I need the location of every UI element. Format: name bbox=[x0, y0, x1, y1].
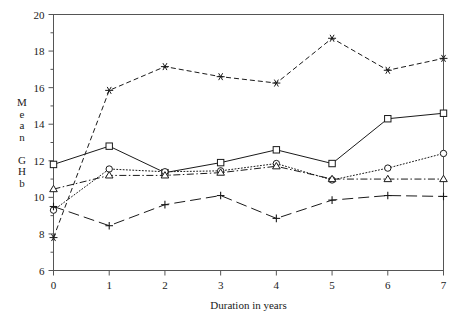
marker-triangle bbox=[384, 175, 392, 181]
y-tick-label: 16 bbox=[34, 82, 46, 94]
x-tick-label: 3 bbox=[218, 279, 224, 291]
series-series-5 bbox=[50, 192, 448, 230]
marker-triangle bbox=[105, 172, 113, 178]
y-axis-ticks bbox=[49, 15, 54, 271]
y-axis-title-char: b bbox=[19, 177, 25, 189]
series-line bbox=[54, 196, 444, 226]
marker-square bbox=[440, 110, 446, 116]
x-tick-label: 1 bbox=[106, 279, 112, 291]
y-axis-title-char: e bbox=[20, 108, 25, 120]
x-axis-tick-labels: 01234567 bbox=[51, 279, 447, 291]
marker-square bbox=[217, 159, 223, 165]
y-tick-label: 6 bbox=[39, 265, 45, 277]
marker-square bbox=[385, 116, 391, 122]
marker-square bbox=[106, 143, 112, 149]
y-axis-title-char: a bbox=[20, 119, 25, 131]
marker-square bbox=[329, 160, 335, 166]
x-tick-label: 0 bbox=[51, 279, 57, 291]
marker-circle bbox=[440, 150, 446, 156]
chart-figure: 68101214161820 01234567 MeanGHb Duration… bbox=[0, 0, 462, 319]
y-axis-title-char: H bbox=[18, 165, 26, 177]
series-series-1 bbox=[50, 35, 448, 241]
y-axis-title-char: M bbox=[17, 96, 27, 108]
x-axis-title-text: Duration in years bbox=[210, 299, 286, 311]
marker-square bbox=[273, 147, 279, 153]
x-axis-title: Duration in years bbox=[210, 299, 286, 311]
y-tick-label: 14 bbox=[34, 118, 46, 130]
x-tick-label: 5 bbox=[329, 279, 335, 291]
marker-circle bbox=[385, 165, 391, 171]
chart-canvas: 68101214161820 01234567 MeanGHb Duration… bbox=[0, 0, 462, 319]
y-axis-title-char: G bbox=[18, 154, 26, 166]
y-tick-label: 20 bbox=[34, 9, 46, 21]
y-tick-label: 12 bbox=[34, 155, 45, 167]
data-series-layer bbox=[50, 35, 448, 241]
y-axis-tick-labels: 68101214161820 bbox=[34, 9, 46, 277]
x-axis-ticks bbox=[54, 271, 444, 276]
x-tick-label: 2 bbox=[162, 279, 168, 291]
series-markers bbox=[50, 192, 448, 230]
marker-square bbox=[50, 161, 56, 167]
x-tick-label: 7 bbox=[441, 279, 447, 291]
series-line bbox=[54, 38, 444, 237]
series-markers bbox=[50, 35, 448, 241]
y-axis-title-char: n bbox=[19, 131, 25, 143]
marker-triangle bbox=[440, 175, 448, 181]
y-tick-label: 8 bbox=[39, 228, 45, 240]
y-tick-label: 10 bbox=[34, 191, 46, 203]
y-tick-label: 18 bbox=[34, 45, 46, 57]
x-tick-label: 6 bbox=[385, 279, 391, 291]
y-axis-title: MeanGHb bbox=[17, 96, 27, 189]
x-tick-label: 4 bbox=[274, 279, 280, 291]
